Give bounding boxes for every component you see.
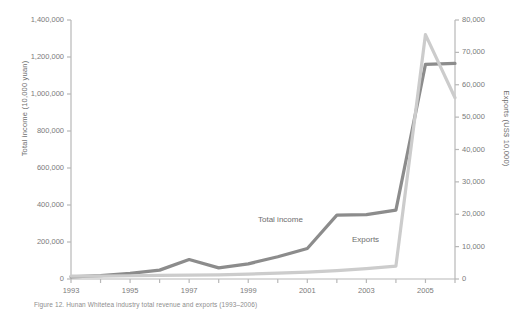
figure-caption: Figure 12. Hunan Whitetea industry total… bbox=[34, 301, 257, 308]
y-tick-label-right: 80,000 bbox=[462, 15, 510, 24]
y-tick-label-right: 20,000 bbox=[462, 209, 510, 218]
y-tick-label-left: 0 bbox=[6, 274, 64, 283]
series-line-exports bbox=[71, 35, 455, 277]
y-tick-label-left: 400,000 bbox=[6, 200, 64, 209]
series-annotation-exports: Exports bbox=[352, 235, 379, 244]
x-tick-label: 2003 bbox=[346, 286, 386, 295]
x-tick-label: 1997 bbox=[169, 286, 209, 295]
y-tick-label-right: 60,000 bbox=[462, 80, 510, 89]
y-tick-label-right: 0 bbox=[462, 274, 510, 283]
x-tick-label: 2001 bbox=[287, 286, 327, 295]
y-tick-label-right: 50,000 bbox=[462, 112, 510, 121]
x-tick-label: 1993 bbox=[51, 286, 91, 295]
y-tick-label-left: 800,000 bbox=[6, 126, 64, 135]
y-tick-label-left: 1,000,000 bbox=[6, 89, 64, 98]
x-tick-label: 1995 bbox=[110, 286, 150, 295]
x-tick-label: 1999 bbox=[228, 286, 268, 295]
y-tick-label-right: 10,000 bbox=[462, 242, 510, 251]
series-annotation-total-income: Total income bbox=[258, 215, 303, 224]
y-tick-label-left: 1,200,000 bbox=[6, 52, 64, 61]
y-tick-label-right: 70,000 bbox=[462, 47, 510, 56]
y-tick-label-right: 40,000 bbox=[462, 145, 510, 154]
y-tick-label-left: 1,400,000 bbox=[6, 15, 64, 24]
y-tick-label-left: 200,000 bbox=[6, 237, 64, 246]
y-tick-label-left: 600,000 bbox=[6, 163, 64, 172]
x-tick-label: 2005 bbox=[405, 286, 445, 295]
chart-plot-area bbox=[0, 0, 526, 311]
chart-figure: Total income (10,000 yuan) Exports (US$ … bbox=[0, 0, 526, 311]
y-tick-label-right: 30,000 bbox=[462, 177, 510, 186]
